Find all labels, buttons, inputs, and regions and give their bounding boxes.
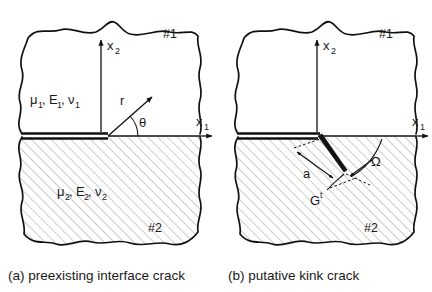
panel-a-lower-body-fill bbox=[19, 137, 201, 245]
panel-a-x1-label-base: x bbox=[196, 114, 203, 129]
panel-b-kink-length-label: a bbox=[303, 166, 311, 181]
panel-a-region-2-tag: #2 bbox=[148, 221, 162, 235]
panel-a-E1-comma: , bbox=[61, 92, 65, 107]
panel-b-region-2-tag: #2 bbox=[364, 221, 378, 235]
panel-a-nu2-sub: 2 bbox=[102, 192, 107, 202]
panel-a-nu1-symbol: ν bbox=[68, 92, 75, 107]
panel-a-caption: (a) preexisting interface crack bbox=[8, 268, 185, 283]
panel-a-theta-label: θ bbox=[139, 115, 146, 130]
panel-a-r-label: r bbox=[120, 93, 125, 108]
panel-a-mu2-symbol: μ bbox=[57, 184, 65, 199]
panel-a-x2-label-base: x bbox=[107, 38, 114, 53]
interface-crack-diagram: #1 #2 x 2 x 1 r θ μ 1 , E 1 , ν bbox=[0, 0, 432, 292]
panel-b-gt-base: G bbox=[310, 193, 320, 208]
panel-b: #1 #2 x 2 x 1 a G t Ω bbox=[235, 22, 428, 245]
panel-a-region-1-tag: #1 bbox=[163, 27, 177, 41]
panel-a-mu2-comma: , bbox=[69, 184, 73, 199]
panel-a-E2-comma: , bbox=[88, 184, 92, 199]
panel-a: #1 #2 x 2 x 1 r θ μ 1 , E 1 , ν bbox=[19, 22, 212, 245]
panel-a-x1-label-sub: 1 bbox=[204, 122, 209, 132]
panel-b-x1-label-base: x bbox=[412, 114, 419, 129]
panel-a-x2-label-sub: 2 bbox=[115, 46, 120, 56]
panel-b-x2-label-base: x bbox=[323, 38, 330, 53]
panel-b-x2-label-sub: 2 bbox=[331, 46, 336, 56]
panel-b-caption: (b) putative kink crack bbox=[228, 268, 360, 283]
panel-a-mu1-comma: , bbox=[42, 92, 46, 107]
panel-a-nu1-sub: 1 bbox=[75, 100, 80, 110]
panel-a-mu1-symbol: μ bbox=[30, 92, 38, 107]
figure-container: #1 #2 x 2 x 1 r θ μ 1 , E 1 , ν bbox=[0, 0, 432, 292]
panel-b-omega-label: Ω bbox=[371, 154, 381, 169]
panel-b-region-1-tag: #1 bbox=[379, 27, 393, 41]
panel-b-x1-label-sub: 1 bbox=[420, 122, 425, 132]
panel-a-nu2-symbol: ν bbox=[95, 184, 102, 199]
panel-b-lower-body-fill bbox=[235, 137, 417, 245]
